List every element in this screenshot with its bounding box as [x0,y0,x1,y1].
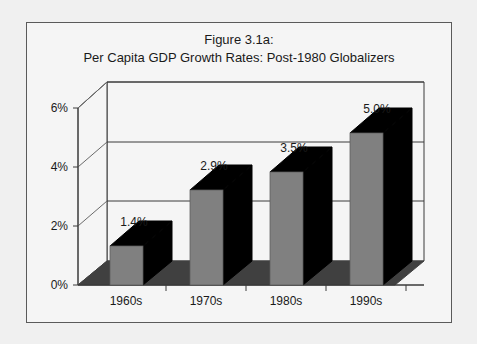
chart-title-line-1: Figure 3.1a: [27,31,451,49]
chart-frame: Figure 3.1a: Per Capita GDP Growth Rates… [26,22,452,323]
chart-title: Figure 3.1a: Per Capita GDP Growth Rates… [27,31,451,67]
figure-root: Figure 3.1a: Per Capita GDP Growth Rates… [0,0,477,344]
chart-title-line-2: Per Capita GDP Growth Rates: Post-1980 G… [27,49,451,67]
